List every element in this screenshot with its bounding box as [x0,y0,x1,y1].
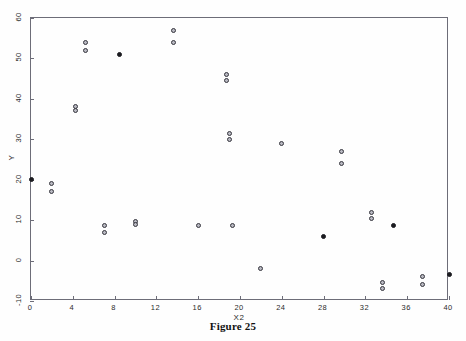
y-axis-title: Y [7,150,16,164]
x-tick-label: 12 [151,303,160,312]
scatter-point [420,274,425,279]
scatter-point [29,177,34,182]
x-tick-mark [31,296,32,300]
x-tick-mark [115,296,116,300]
scatter-point [171,28,176,33]
x-tick-mark [324,296,325,300]
x-tick-label: 0 [28,303,33,312]
scatter-point [49,181,54,186]
x-tick-mark [198,296,199,300]
scatter-point [380,280,385,285]
x-tick-mark [282,296,283,300]
y-tick-mark [30,58,34,59]
scatter-point [133,222,138,227]
x-tick-label: 32 [360,303,369,312]
y-tick-label: 30 [14,130,23,146]
x-tick-label: 24 [276,303,285,312]
scatter-point [339,149,344,154]
scatter-point [420,282,425,287]
scatter-point [83,48,88,53]
x-tick-mark [365,296,366,300]
y-tick-label: 50 [14,49,23,65]
y-tick-label: 10 [14,211,23,227]
scatter-point [196,223,201,228]
scatter-point [102,230,107,235]
scatter-point [391,223,396,228]
y-tick-label: 0 [14,252,23,268]
scatter-point [321,234,326,239]
plot-area [30,17,448,300]
x-tick-label: 4 [70,303,75,312]
y-tick-mark [30,261,34,262]
figure-container: 0481216202428323640 -100102030405060 X2 … [0,0,466,341]
scatter-point [73,108,78,113]
scatter-point [224,78,229,83]
scatter-point [339,161,344,166]
y-tick-label: 40 [14,90,23,106]
y-tick-mark [30,220,34,221]
x-tick-mark [407,296,408,300]
scatter-point [380,286,385,291]
scatter-point [102,223,107,228]
scatter-point [258,266,263,271]
scatter-point [171,40,176,45]
scatter-point [447,272,452,277]
scatter-point [83,40,88,45]
y-tick-mark [30,18,34,19]
x-tick-mark [240,296,241,300]
scatter-point [227,137,232,142]
figure-caption: Figure 25 [0,320,466,332]
scatter-point [369,210,374,215]
y-tick-mark [30,301,34,302]
scatter-point [227,131,232,136]
y-tick-label: 60 [14,9,23,25]
x-tick-mark [73,296,74,300]
x-tick-label: 16 [193,303,202,312]
y-tick-label: -10 [14,292,23,308]
scatter-point [369,216,374,221]
y-tick-mark [30,99,34,100]
x-tick-mark [449,296,450,300]
scatter-point [230,223,235,228]
x-tick-label: 36 [402,303,411,312]
x-tick-label: 8 [111,303,116,312]
scatter-point [224,72,229,77]
scatter-point [279,141,284,146]
x-tick-label: 20 [234,303,243,312]
y-tick-mark [30,139,34,140]
scatter-point [117,52,122,57]
scatter-point [49,189,54,194]
y-tick-label: 20 [14,171,23,187]
x-tick-mark [156,296,157,300]
x-tick-label: 28 [318,303,327,312]
x-tick-label: 40 [443,303,452,312]
